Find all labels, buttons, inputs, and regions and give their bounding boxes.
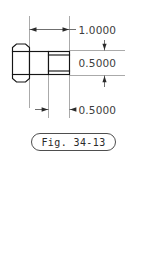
dimension-value-thread-length: 0.5000	[79, 104, 117, 116]
dimension-thread-length: 0.5000	[35, 104, 116, 116]
drawing-canvas: 1.0000 0.5000 0.5000 Fig. 34-13	[0, 0, 152, 272]
engineering-drawing-figure: 1.0000 0.5000 0.5000 Fig. 34-13	[0, 0, 152, 272]
figure-caption: Fig. 34-13	[32, 134, 116, 151]
arrow-left-overall-length	[30, 27, 37, 31]
dimension-shank-diameter: 0.5000	[79, 40, 117, 87]
arrow-left-thread-length	[70, 107, 76, 111]
arrow-right-thread-length	[42, 107, 48, 111]
dimension-value-overall-length: 1.0000	[79, 24, 117, 36]
arrow-down-shank-diameter	[102, 44, 106, 50]
arrow-right-overall-length	[63, 27, 70, 31]
dimension-value-shank-diameter: 0.5000	[79, 57, 117, 69]
hex-head-fill	[13, 44, 30, 82]
dimension-overall-length: 1.0000	[30, 24, 117, 36]
bolt-object	[13, 44, 70, 82]
shank-fill	[30, 52, 49, 75]
arrow-up-shank-diameter	[102, 76, 106, 82]
caption-label: Fig. 34-13	[41, 137, 105, 148]
